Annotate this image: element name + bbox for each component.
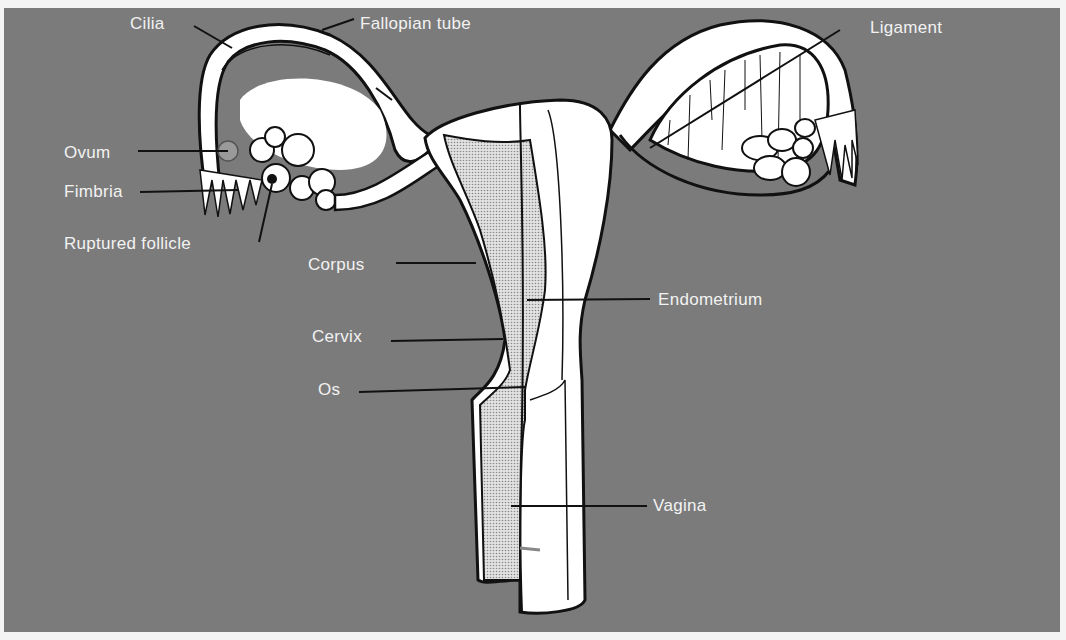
ruptured-follicle-leader [259,184,272,242]
fallopian-tube-leader [322,19,354,30]
fimbria-leader [140,190,238,192]
cervix-leader [391,339,503,341]
label-ruptured-follicle: Ruptured follicle [64,234,191,254]
left-fimbria [200,170,262,217]
label-os: Os [318,380,340,400]
label-endometrium: Endometrium [658,290,762,310]
label-cilia: Cilia [130,14,165,34]
label-ligament: Ligament [870,18,942,38]
endometrium-leader [527,299,650,300]
right-fimbria [815,110,858,180]
label-corpus: Corpus [308,255,365,275]
label-cervix: Cervix [312,327,362,347]
label-fimbria: Fimbria [64,182,123,202]
label-ovum: Ovum [64,143,111,163]
label-fallopian-tube: Fallopian tube [360,14,471,34]
reproductive-system-diagram [0,0,1066,640]
label-vagina: Vagina [653,496,706,516]
uterus [425,100,612,613]
